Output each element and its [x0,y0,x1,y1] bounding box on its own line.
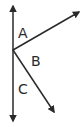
angle-diagram: A B C [0,0,82,127]
angle-b-label: B [31,53,41,69]
angle-a-label: A [18,25,28,41]
angle-c-label: C [18,81,28,97]
vertex-point [12,49,14,51]
